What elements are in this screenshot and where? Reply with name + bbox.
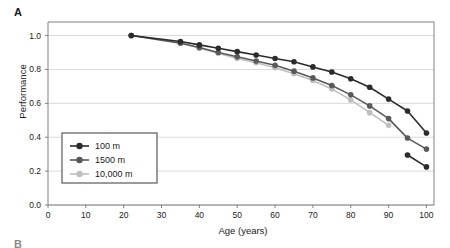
- data-point-1500m-70: [310, 75, 316, 81]
- legend-label-1500m: 1500 m: [95, 155, 125, 165]
- data-point-1500m-60: [272, 62, 278, 68]
- data-point-10000m-90: [386, 123, 392, 129]
- data-point-1500m-65: [291, 68, 297, 74]
- data-point-100m-100: [424, 130, 430, 136]
- y-tick-label-0.0: 0.0: [29, 200, 41, 210]
- data-point-1500m-85: [367, 103, 373, 109]
- performance-vs-age-chart: 0102030405060708090100 0.00.20.40.60.81.…: [0, 0, 450, 248]
- series-line-100m: [131, 36, 426, 133]
- x-tick-label-40: 40: [195, 210, 205, 220]
- data-point-100m-50: [234, 49, 240, 55]
- x-tick-label-100: 100: [419, 210, 433, 220]
- legend-marker-2: [76, 171, 82, 177]
- series-line-1500m: [131, 36, 426, 150]
- data-point-100m-60: [272, 56, 278, 62]
- data-point-100mtail-95: [405, 152, 411, 158]
- data-point-1500m-50: [234, 54, 240, 60]
- data-point-1500m-75: [329, 83, 335, 89]
- chart-panel: A B Performance Age (years) 010203040506…: [0, 0, 450, 248]
- data-point-1500m-90: [386, 116, 392, 122]
- data-point-100m-40: [197, 42, 203, 48]
- data-point-10000m-80: [348, 97, 354, 103]
- y-tick-label-0.2: 0.2: [29, 166, 41, 176]
- x-tick-label-0: 0: [46, 210, 51, 220]
- y-tick-label-0.4: 0.4: [29, 132, 41, 142]
- data-point-1500m-55: [253, 58, 259, 64]
- legend-marker-1: [76, 157, 82, 163]
- data-point-100m-70: [310, 64, 316, 70]
- data-point-10000m-85: [367, 110, 373, 116]
- data-point-1500m-100: [424, 146, 430, 152]
- x-tick-label-90: 90: [384, 210, 394, 220]
- data-point-100m-65: [291, 59, 297, 65]
- legend-marker-0: [76, 143, 82, 149]
- x-tick-label-80: 80: [346, 210, 356, 220]
- data-point-1500m-95: [405, 135, 411, 141]
- x-tick-label-10: 10: [81, 210, 91, 220]
- data-point-100m-80: [348, 76, 354, 82]
- y-tick-labels: 0.00.20.40.60.81.0: [29, 31, 48, 210]
- data-point-1500m-80: [348, 92, 354, 98]
- x-tick-label-20: 20: [119, 210, 129, 220]
- x-tick-label-60: 60: [270, 210, 280, 220]
- x-tick-label-30: 30: [157, 210, 167, 220]
- data-point-100m-85: [367, 84, 373, 90]
- x-tick-labels: 0102030405060708090100: [46, 205, 434, 220]
- data-point-100m-55: [253, 52, 259, 58]
- x-tick-label-50: 50: [232, 210, 242, 220]
- data-point-100m-95: [405, 108, 411, 114]
- legend-label-10000m: 10,000 m: [95, 169, 133, 179]
- data-point-100m-90: [386, 96, 392, 102]
- y-tick-label-0.6: 0.6: [29, 98, 41, 108]
- y-tick-label-1.0: 1.0: [29, 31, 41, 41]
- y-tick-label-0.8: 0.8: [29, 64, 41, 74]
- data-series: [128, 33, 429, 170]
- series-line-100mtail: [408, 155, 427, 167]
- data-point-100mtail-100: [424, 164, 430, 170]
- data-point-100m-45: [215, 45, 221, 51]
- x-tick-label-70: 70: [308, 210, 318, 220]
- chart-legend: 100 m1500 m10,000 m: [62, 133, 157, 183]
- data-point-100m-75: [329, 69, 335, 75]
- data-point-100m-35: [178, 39, 184, 45]
- legend-label-100m: 100 m: [95, 141, 120, 151]
- data-point-100m-22: [128, 33, 134, 39]
